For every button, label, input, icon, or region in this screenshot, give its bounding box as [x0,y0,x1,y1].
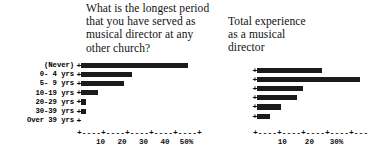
left-chart-category-labels: (Never) 0- 4 yrs 5- 9 yrs 10-19 yrs 20-2… [0,61,76,125]
category-label: 30-39 yrs [0,107,76,116]
right-chart-title: Total experience as a musical director [228,15,368,55]
right-chart-axis-line: +----+----+----+----+--- [253,129,368,137]
axis-tick-label: 20 [305,137,314,148]
bar [81,109,86,114]
bar [81,63,189,68]
category-label: 0- 4 yrs [0,70,76,79]
category-label: Over 39 yrs [0,116,76,125]
bar-row: + [255,94,374,103]
category-label: 10-19 yrs [0,89,76,98]
bar [257,86,303,91]
bar-row: + [255,66,374,75]
right-chart-tick-labels: 102030% [255,137,374,148]
category-label: (Never) [0,61,76,70]
left-chart-title: What is the longest period that you have… [86,2,236,55]
left-chart-axis-line: +----+----+----+----+----+ [77,129,202,137]
axis-tick-label: 30 [139,137,148,148]
axis-tick-marker-icon: + [76,117,81,125]
bar [81,81,124,86]
axis-tick-label: 10 [96,137,105,148]
axis-tick-label: 20 [117,137,126,148]
bar [257,104,281,109]
bar [257,68,322,73]
axis-tick-label: 10 [278,137,287,148]
figure-two-bar-charts: What is the longest period that you have… [0,0,374,153]
bar [81,99,86,104]
category-label: 5- 9 yrs [0,79,76,88]
bar [81,72,133,77]
axis-tick-label: 30% [330,137,344,148]
category-label: 20-29 yrs [0,98,76,107]
bar-row: + [255,103,374,112]
bar [257,95,298,100]
bar [257,114,271,119]
axis-tick-label: 40 [160,137,169,148]
axis-tick-label: 50% [180,137,194,148]
bar [81,90,98,95]
bar-row: + [255,112,374,121]
bar [257,77,360,82]
bar-row: + [255,84,374,93]
bar-row: + [255,75,374,84]
